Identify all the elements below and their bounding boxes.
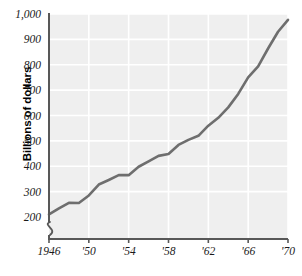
chart-container: Billions of dollars 20030040050060070080… <box>0 0 302 276</box>
plot-area <box>0 0 302 276</box>
